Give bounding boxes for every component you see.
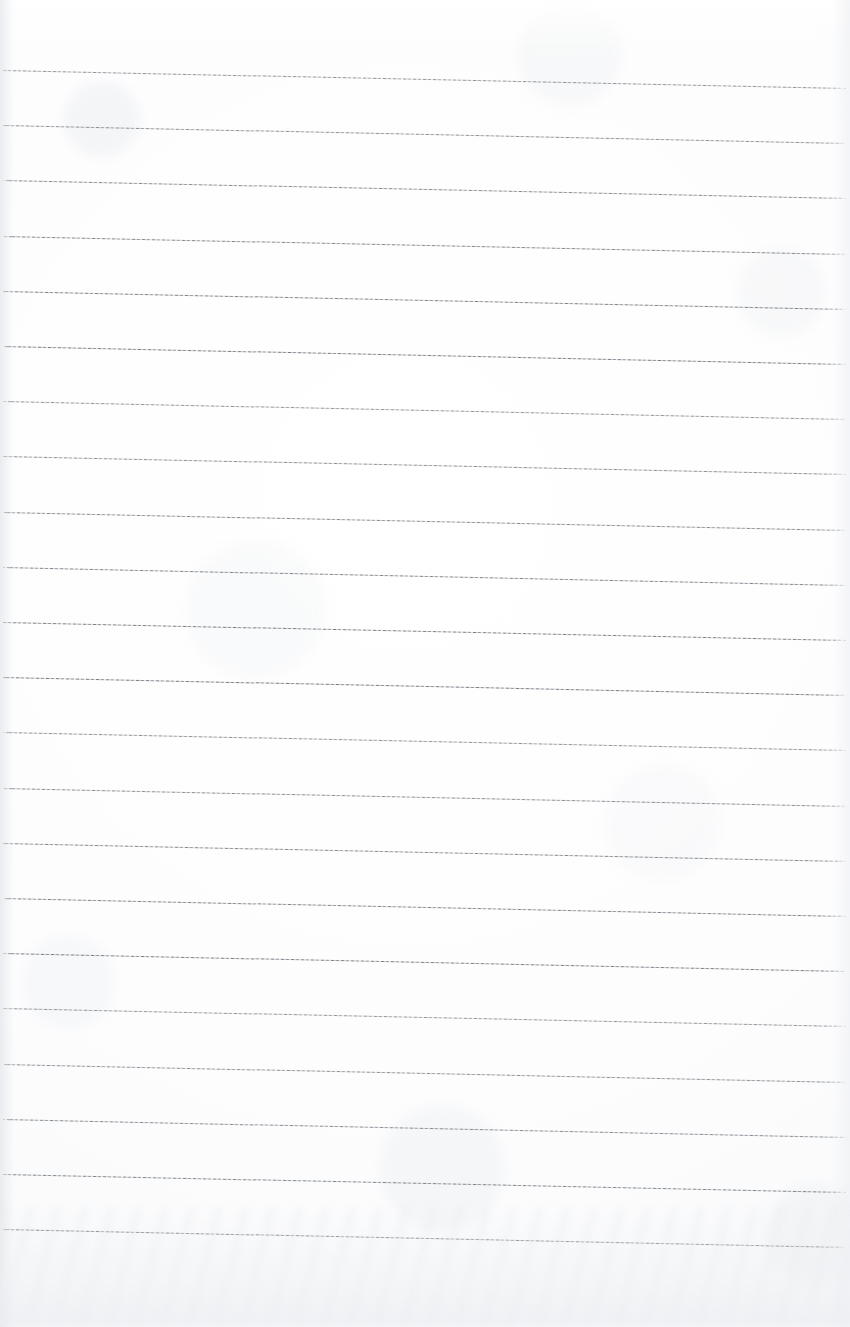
ruled-line [3,898,846,917]
bottom-scan-shadow [0,1207,850,1327]
ruled-line [3,236,846,255]
ruled-line [3,567,846,586]
ruled-line [3,125,846,144]
ruled-line [3,346,846,365]
ruled-line [3,401,846,420]
ruled-line [3,512,846,531]
ruled-line [3,953,846,972]
ruled-line [3,843,846,862]
ruled-line [3,1119,846,1138]
ruled-line [3,180,846,199]
ruled-line [3,622,846,641]
scanned-page [0,0,850,1327]
ruled-lines-group [0,0,850,1327]
ruled-line [3,70,846,89]
ruled-line [3,788,846,807]
ruled-line [3,732,846,751]
ruled-line [3,677,846,696]
ruled-line [3,1008,846,1027]
ruled-line [3,1064,846,1083]
ruled-line [3,291,846,310]
ruled-line [3,456,846,475]
ruled-line [3,1174,846,1193]
